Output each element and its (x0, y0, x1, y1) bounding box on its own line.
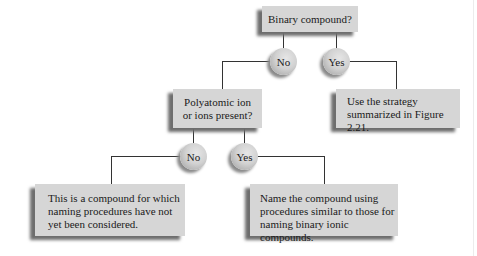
decision-poly-yes: Yes (231, 143, 258, 170)
connector-yes-h (349, 61, 397, 62)
connector-yes-v (396, 61, 397, 89)
node-polyatomic-label: Polyatomic ion or ions present? (183, 96, 253, 122)
node-strategy: Use the strategy summarized in Figure 2.… (336, 89, 460, 128)
connector-binary-yes (336, 32, 337, 48)
node-name-compound: Name the compound using procedures simil… (250, 184, 398, 236)
connector-poly-no-v (111, 156, 112, 184)
decision-poly-no-label: No (187, 151, 200, 163)
connector-no-h (222, 61, 270, 62)
node-not-considered: This is a compound for which naming proc… (35, 184, 185, 236)
decision-binary-no: No (270, 48, 297, 75)
decision-binary-yes: Yes (323, 48, 350, 75)
connector-no-v (222, 61, 223, 89)
decision-poly-yes-label: Yes (236, 151, 252, 163)
connector-binary-no (283, 32, 284, 48)
decision-poly-no: No (180, 143, 207, 170)
connector-poly-no-h (111, 156, 181, 157)
decision-binary-yes-label: Yes (328, 56, 344, 68)
decision-binary-no-label: No (277, 56, 290, 68)
page-edge-divider (473, 0, 474, 256)
node-strategy-label: Use the strategy summarized in Figure 2.… (347, 95, 444, 133)
node-binary-compound: Binary compound? (262, 6, 358, 32)
node-polyatomic: Polyatomic ion or ions present? (173, 89, 262, 128)
connector-poly-yes-v (324, 156, 325, 184)
node-binary-compound-label: Binary compound? (268, 13, 352, 26)
connector-poly-yes (244, 128, 245, 143)
node-not-considered-label: This is a compound for which naming proc… (48, 192, 180, 230)
connector-poly-yes-h (257, 156, 325, 157)
connector-poly-no (193, 128, 194, 143)
node-name-compound-label: Name the compound using procedures simil… (260, 192, 394, 243)
